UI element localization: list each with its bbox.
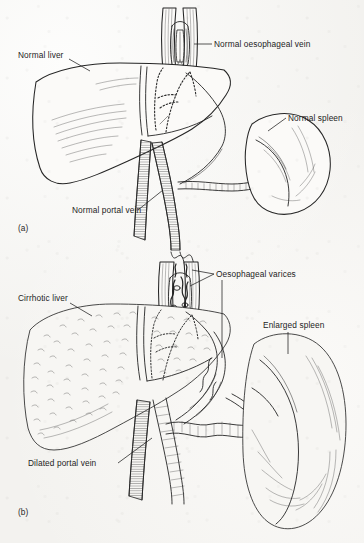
anatomical-figure: Normal liver Normal oesophageal vein Nor… xyxy=(0,0,364,543)
normal-oesophageal-vein-a xyxy=(176,30,184,68)
label-normal-portal-vein: Normal portal vein xyxy=(72,205,141,215)
figure-canvas: Normal liver Normal oesophageal vein Nor… xyxy=(0,0,364,543)
label-dilated-portal-vein: Dilated portal vein xyxy=(28,458,97,468)
dilated-portal-vein-b xyxy=(153,398,184,504)
normal-spleen-a xyxy=(245,114,330,215)
panel-b: Cirrhotic liver Oesophageal varices Enla… xyxy=(18,262,346,529)
normal-liver-a xyxy=(33,63,230,184)
label-enlarged-spleen: Enlarged spleen xyxy=(263,320,325,330)
label-oesophageal-varices: Oesophageal varices xyxy=(216,269,296,279)
panel-a: Normal liver Normal oesophageal vein Nor… xyxy=(18,8,343,268)
label-normal-liver: Normal liver xyxy=(18,50,64,60)
cirrhotic-liver-b xyxy=(24,304,231,450)
panel-b-id: (b) xyxy=(18,507,28,517)
label-normal-spleen: Normal spleen xyxy=(288,113,343,123)
label-normal-oesophageal-vein: Normal oesophageal vein xyxy=(214,39,311,49)
label-cirrhotic-liver: Cirrhotic liver xyxy=(18,293,68,303)
panel-a-id: (a) xyxy=(18,223,28,233)
enlarged-spleen-b xyxy=(243,334,346,529)
